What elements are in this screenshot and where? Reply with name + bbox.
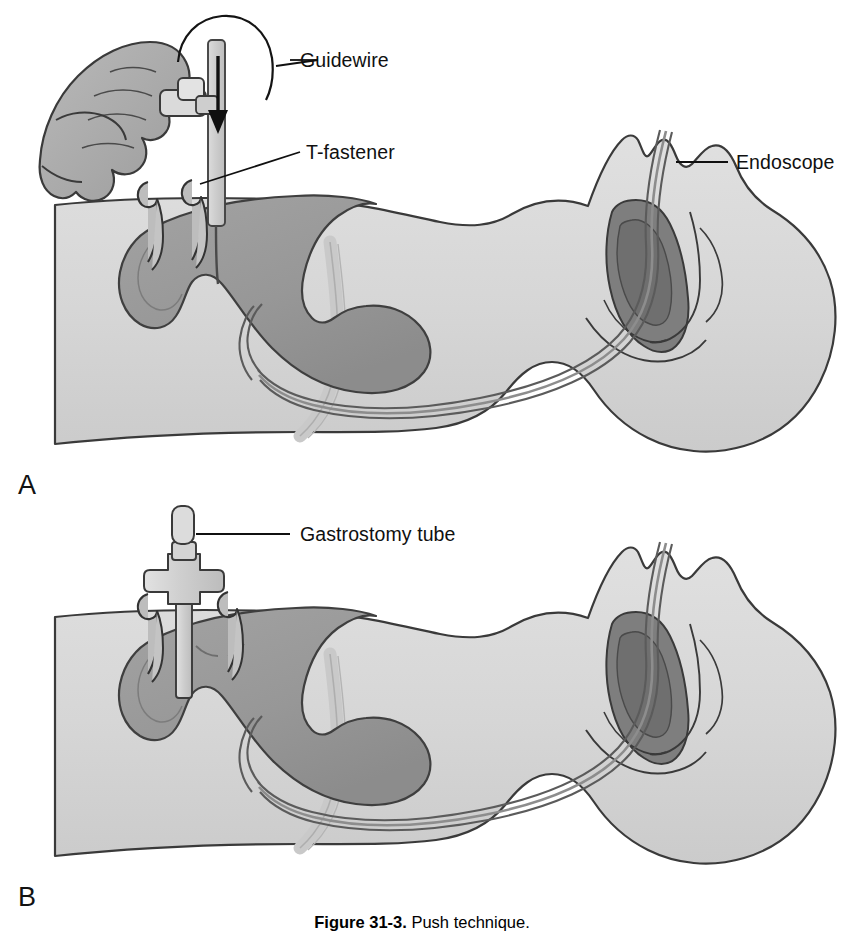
figure-caption-text: Push technique. xyxy=(411,913,529,931)
endoscope-label: Endoscope xyxy=(736,151,834,173)
label-t-fastener-a: T-fastener xyxy=(200,141,395,184)
figure-illustration: Guidewire T-fastener Endoscope A xyxy=(0,0,844,942)
gastrostomy-tube-label: Gastrostomy tube xyxy=(300,523,456,545)
figure-caption: Figure 31-3. Push technique. xyxy=(0,913,844,932)
label-gastrostomy-tube-b: Gastrostomy tube xyxy=(196,523,456,545)
guidewire-label: Guidewire xyxy=(300,49,389,71)
panel-b-illustration: Gastrostomy tube B xyxy=(0,492,844,912)
figure-number: Figure 31-3. xyxy=(314,913,407,931)
t-fastener-label: T-fastener xyxy=(306,141,395,163)
hand-a xyxy=(40,42,190,201)
panel-a-illustration: Guidewire T-fastener Endoscope A xyxy=(0,0,844,500)
label-guidewire-a: Guidewire xyxy=(276,49,389,71)
panel-letter-b: B xyxy=(18,882,36,912)
